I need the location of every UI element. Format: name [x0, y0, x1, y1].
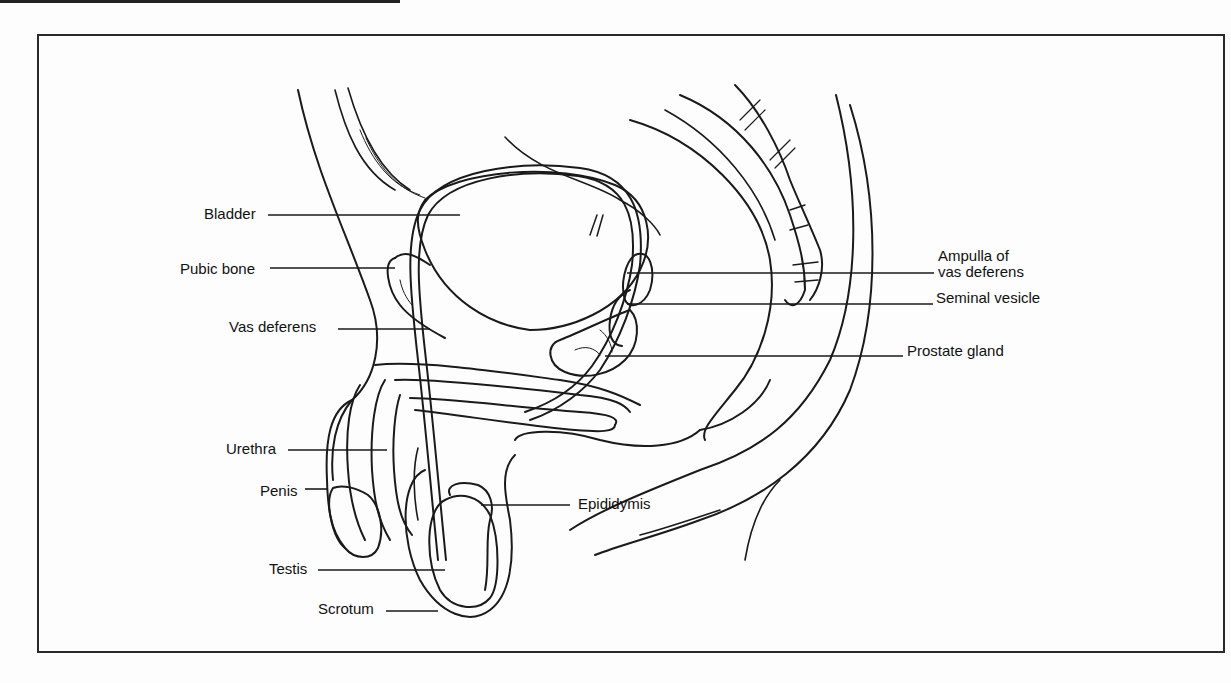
leader-lines: [0, 0, 1231, 683]
